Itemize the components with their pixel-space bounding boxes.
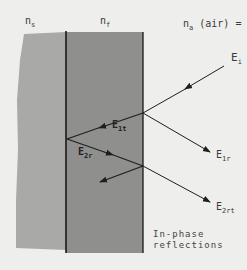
film-index-label: nf [100, 16, 110, 26]
label-subscript: s [31, 21, 35, 29]
first-reflected-label: E1r [216, 150, 230, 160]
substrate-region [16, 32, 66, 250]
thin-film-diagram: ns nf na (air) = Ei E1r E1t E2r E2rt In-… [0, 0, 247, 270]
label-suffix: (air) = [193, 18, 241, 29]
first-transmitted-label: E1t [112, 120, 126, 130]
caption: In-phase reflections [153, 229, 224, 251]
second-reflected-transmitted-ray [143, 166, 210, 202]
label-subscript: i [238, 58, 242, 66]
label-main: E [231, 51, 238, 64]
label-subscript: 1r [222, 155, 230, 163]
substrate-index-label: ns [25, 16, 35, 26]
label-subscript: 1t [118, 125, 126, 133]
air-index-label: na (air) = [183, 19, 241, 29]
caption-line-1: In-phase [153, 229, 224, 240]
incident-ray-label: Ei [231, 52, 242, 63]
label-subscript: 2rt [222, 207, 235, 215]
label-subscript: a [189, 24, 193, 32]
label-subscript: 2r [84, 152, 92, 160]
incident-ray [185, 66, 224, 89]
caption-line-2: reflections [153, 240, 224, 251]
first-reflected-ray [143, 113, 210, 152]
label-subscript: f [106, 21, 110, 29]
second-reflected-label: E2r [78, 147, 92, 157]
incident-ray-tail [143, 88, 187, 113]
second-reflected-transmitted-label: E2rt [216, 202, 235, 212]
